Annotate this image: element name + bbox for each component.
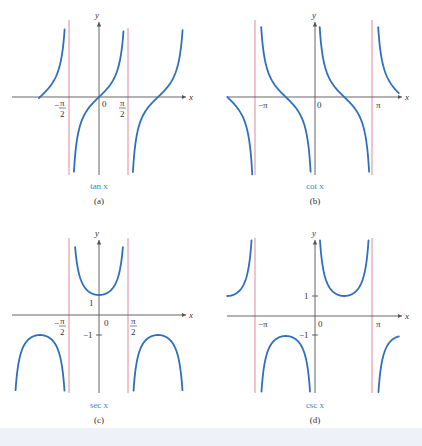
x-axis-label: x bbox=[188, 92, 193, 102]
trig-functions-figure: y x 0 − π 2 π 2 tan x (a) y x 0 −π π cot… bbox=[0, 0, 422, 446]
svg-text:−: − bbox=[54, 100, 59, 110]
tick-neg-pi-half: − π 2 bbox=[54, 98, 66, 119]
tick-pi-half: π 2 bbox=[119, 98, 126, 119]
panel-csc: y x 0 1 −1 −π π csc x (d) bbox=[227, 228, 409, 425]
panel-caption: (c) bbox=[94, 415, 104, 425]
tick-one-label: 1 bbox=[89, 298, 94, 308]
svg-text:π: π bbox=[60, 98, 65, 108]
panel-caption: (a) bbox=[94, 196, 104, 206]
tick-pi-half: π 2 bbox=[130, 316, 137, 337]
panel-cot: y x 0 −π π cot x (b) bbox=[227, 10, 409, 206]
function-label: cot x bbox=[306, 181, 324, 191]
panel-caption: (d) bbox=[310, 415, 321, 425]
origin-label: 0 bbox=[318, 319, 323, 329]
tick-pi: π bbox=[376, 100, 381, 110]
function-label: tan x bbox=[90, 181, 108, 191]
svg-text:2: 2 bbox=[120, 109, 125, 119]
tick-neg-one-label: −1 bbox=[299, 330, 309, 340]
y-axis-label: y bbox=[311, 228, 316, 238]
x-axis-label: x bbox=[188, 310, 193, 320]
svg-text:2: 2 bbox=[60, 327, 65, 337]
tick-pi: π bbox=[376, 319, 381, 329]
tick-one-label: 1 bbox=[304, 291, 309, 301]
svg-text:π: π bbox=[60, 316, 65, 326]
svg-text:2: 2 bbox=[131, 327, 136, 337]
tick-neg-pi-half: − π 2 bbox=[54, 316, 66, 337]
function-label: csc x bbox=[306, 400, 325, 410]
tick-neg-one-label: −1 bbox=[83, 330, 93, 340]
x-axis-label: x bbox=[404, 311, 409, 321]
tick-neg-pi: −π bbox=[258, 100, 268, 110]
svg-text:−: − bbox=[54, 318, 59, 328]
function-label: sec x bbox=[90, 400, 109, 410]
tick-neg-pi: −π bbox=[258, 319, 268, 329]
origin-label: 0 bbox=[104, 318, 109, 328]
origin-label: 0 bbox=[317, 100, 322, 110]
svg-text:π: π bbox=[131, 316, 136, 326]
cot-curve bbox=[227, 27, 399, 174]
y-axis-label: y bbox=[94, 228, 99, 238]
y-axis-label: y bbox=[94, 10, 99, 20]
y-axis-label: y bbox=[311, 10, 316, 20]
background-band bbox=[0, 428, 422, 446]
panel-sec: y x 0 1 −1 − π 2 π 2 sec x (c) bbox=[12, 228, 193, 425]
svg-text:2: 2 bbox=[60, 109, 65, 119]
x-axis-label: x bbox=[404, 92, 409, 102]
panel-caption: (b) bbox=[310, 196, 321, 206]
panel-tan: y x 0 − π 2 π 2 tan x (a) bbox=[12, 10, 193, 206]
origin-label: 0 bbox=[102, 99, 107, 109]
svg-text:π: π bbox=[120, 98, 125, 108]
